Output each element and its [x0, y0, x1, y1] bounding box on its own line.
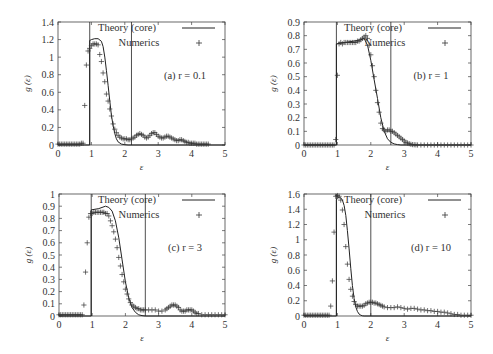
x-tick-label: 0 [302, 148, 307, 159]
legend-theory-label: Theory (core) [344, 194, 403, 206]
x-tick-label: 3 [156, 319, 161, 330]
y-tick-label: 0.5 [288, 71, 301, 82]
x-tick-label: 3 [156, 148, 161, 159]
legend-marker-swatch [442, 212, 448, 218]
numerics-markers [55, 41, 211, 146]
y-tick-label: 1.4 [42, 17, 55, 28]
y-tick-label: 0.1 [43, 298, 56, 309]
x-tick-label: 4 [189, 319, 194, 330]
theory-curve [59, 206, 225, 316]
y-tick-label: 1 [295, 234, 300, 245]
y-tick-label: 0 [295, 140, 300, 151]
legend-theory-label: Theory (core) [98, 194, 157, 206]
x-tick-label: 5 [223, 319, 228, 330]
y-tick-label: 0 [50, 311, 55, 322]
panel-label: (c) r = 3 [168, 242, 202, 254]
y-tick-label: 0.6 [288, 58, 301, 69]
y-tick-label: 0.7 [288, 44, 301, 55]
chart-panel-a: 00.20.40.60.811.21.4012345εg (ε)Theory (… [22, 17, 228, 173]
legend-marker-swatch [442, 40, 448, 46]
legend-theory-label: Theory (core) [344, 22, 403, 34]
panel-label: (b) r = 1 [414, 70, 449, 82]
x-tick-label: 1 [335, 319, 340, 330]
y-axis-label: g (ε) [23, 247, 33, 263]
y-tick-label: 0.3 [43, 274, 56, 285]
y-tick-label: 1 [50, 189, 55, 200]
x-tick-label: 1 [90, 319, 95, 330]
y-tick-label: 0 [295, 311, 300, 322]
y-tick-label: 0.4 [42, 104, 55, 115]
y-tick-label: 0.7 [43, 225, 56, 236]
y-tick-label: 0.8 [42, 69, 55, 80]
y-tick-label: 1 [49, 52, 54, 63]
x-tick-label: 2 [368, 148, 373, 159]
y-tick-label: 1.6 [288, 189, 301, 200]
y-tick-label: 1.2 [288, 219, 301, 230]
legend-numerics-label: Numerics [365, 209, 406, 220]
y-tick-label: 0.5 [43, 250, 56, 261]
x-tick-label: 5 [469, 148, 474, 159]
x-tick-label: 0 [302, 319, 307, 330]
legend-numerics-label: Numerics [119, 37, 160, 48]
y-tick-label: 0.6 [42, 87, 55, 98]
x-axis-label: ε [386, 333, 390, 343]
x-tick-label: 4 [189, 148, 194, 159]
numerics-markers [301, 33, 473, 148]
legend-numerics-label: Numerics [365, 37, 406, 48]
theory-curve [58, 39, 225, 145]
x-tick-label: 5 [223, 148, 228, 159]
x-tick-label: 3 [402, 319, 407, 330]
x-tick-label: 2 [122, 148, 127, 159]
x-axis-label: ε [386, 162, 390, 172]
y-tick-label: 0.4 [288, 280, 301, 291]
y-tick-label: 0.2 [43, 286, 56, 297]
chart-panel-b: 00.10.20.30.40.50.60.70.80.9012345εg (ε)… [268, 17, 474, 173]
x-tick-label: 3 [402, 148, 407, 159]
x-axis-label: ε [140, 162, 144, 172]
y-tick-label: 0.4 [288, 85, 301, 96]
y-tick-label: 1.4 [288, 204, 301, 215]
y-tick-label: 0.6 [288, 265, 301, 276]
panel-label: (d) r = 10 [411, 242, 451, 254]
y-tick-label: 1.2 [42, 34, 55, 45]
y-tick-label: 0.2 [288, 295, 301, 306]
y-tick-label: 0.3 [288, 99, 301, 110]
legend-marker-swatch [196, 212, 202, 218]
chart-panel-d: 00.20.40.60.811.21.41.6012345εg (ε)Theor… [268, 189, 474, 344]
legend-numerics-label: Numerics [119, 209, 160, 220]
y-tick-label: 0.2 [42, 122, 55, 133]
y-tick-label: 0.2 [288, 112, 301, 123]
y-axis-label: g (ε) [268, 75, 278, 91]
legend-theory-label: Theory (core) [98, 22, 157, 34]
y-tick-label: 0.8 [288, 30, 301, 41]
x-tick-label: 2 [123, 319, 128, 330]
y-tick-label: 0 [49, 140, 54, 151]
figure-grid: 00.20.40.60.811.21.4012345εg (ε)Theory (… [0, 0, 493, 354]
panel-label: (a) r = 0.1 [164, 70, 206, 82]
x-tick-label: 0 [57, 319, 62, 330]
y-tick-label: 0.8 [43, 213, 56, 224]
numerics-markers [56, 210, 227, 318]
y-tick-label: 0.9 [288, 17, 301, 28]
x-tick-label: 0 [56, 148, 61, 159]
y-tick-label: 0.6 [43, 237, 56, 248]
x-axis-label: ε [140, 333, 144, 343]
legend-marker-swatch [196, 40, 202, 46]
y-axis-label: g (ε) [22, 75, 32, 91]
y-tick-label: 0.1 [288, 126, 301, 137]
x-tick-label: 4 [435, 319, 440, 330]
charts-canvas: 00.20.40.60.811.21.4012345εg (ε)Theory (… [0, 0, 493, 354]
chart-panel-c: 00.10.20.30.40.50.60.70.80.91012345εg (ε… [23, 189, 228, 344]
y-tick-label: 0.8 [288, 250, 301, 261]
x-tick-label: 2 [368, 319, 373, 330]
y-tick-label: 0.4 [43, 262, 56, 273]
x-tick-label: 4 [435, 148, 440, 159]
y-axis-label: g (ε) [268, 247, 278, 263]
x-tick-label: 5 [469, 319, 474, 330]
y-tick-label: 0.9 [43, 201, 56, 212]
x-tick-label: 1 [89, 148, 94, 159]
x-tick-label: 1 [335, 148, 340, 159]
